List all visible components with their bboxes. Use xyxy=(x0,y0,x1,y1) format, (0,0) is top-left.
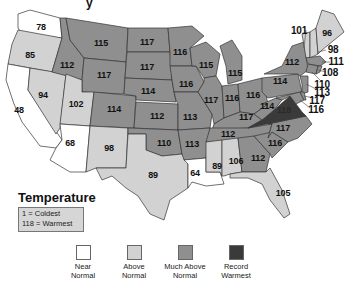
label-az: 68 xyxy=(65,138,75,148)
title-fragment: y xyxy=(86,0,93,10)
label-nv: 94 xyxy=(38,90,48,100)
label-sd: 117 xyxy=(140,62,154,72)
label-ky: 117 xyxy=(239,112,253,122)
label-md: 116 xyxy=(308,104,324,115)
label-ga: 112 xyxy=(251,153,265,163)
legend-item-record-warmest: Record Warmest xyxy=(206,245,266,280)
scale-box: 1 = Coldest 118 = Warmest xyxy=(18,207,84,232)
label-mn: 116 xyxy=(173,47,187,57)
label-mi: 115 xyxy=(228,68,242,78)
label-me: 96 xyxy=(322,28,332,38)
label-id: 112 xyxy=(60,60,74,70)
label-ia: 116 xyxy=(179,79,193,89)
label-wi: 115 xyxy=(199,60,213,70)
label-oh: 116 xyxy=(246,90,260,100)
label-ne: 114 xyxy=(141,86,155,96)
label-ma: 111 xyxy=(329,56,344,67)
swatch-above-normal xyxy=(127,245,142,260)
label-ar: 113 xyxy=(185,139,199,149)
label-nd: 117 xyxy=(140,37,154,47)
label-ut: 102 xyxy=(69,99,83,109)
label-nc: 117 xyxy=(276,123,290,133)
label-or: 85 xyxy=(25,50,35,60)
label-tn: 112 xyxy=(221,129,235,139)
legend-title: Temperature xyxy=(18,190,96,205)
label-ny: 112 xyxy=(285,57,299,67)
swatch-much-above-normal xyxy=(178,245,193,260)
label-sc: 116 xyxy=(268,138,282,148)
label-mt: 115 xyxy=(94,38,108,48)
label-la: 64 xyxy=(190,168,200,178)
label-ks: 112 xyxy=(150,111,164,121)
label-il: 117 xyxy=(204,95,218,105)
label-tx: 89 xyxy=(148,170,158,180)
label-va: 118 xyxy=(277,105,291,115)
scale-coldest: 1 = Coldest xyxy=(22,209,80,219)
label-ms: 89 xyxy=(212,161,222,171)
label-fl: 105 xyxy=(276,188,290,198)
label-nh: 98 xyxy=(328,44,339,55)
scale-warmest: 118 = Warmest xyxy=(22,219,80,229)
us-state-map xyxy=(0,0,347,282)
label-co: 114 xyxy=(107,104,121,114)
label-ri: 108 xyxy=(322,67,338,78)
swatch-near-normal xyxy=(76,245,91,260)
label-ca: 48 xyxy=(14,105,24,115)
label-mo: 113 xyxy=(183,112,197,122)
legend-label: Record Warmest xyxy=(206,262,266,280)
swatch-record-warmest xyxy=(229,245,244,260)
label-vt: 101 xyxy=(291,25,307,36)
label-pa: 114 xyxy=(273,76,287,86)
label-wy: 117 xyxy=(97,70,111,80)
label-ok: 110 xyxy=(157,138,171,148)
label-nm: 98 xyxy=(104,143,114,153)
label-wv: 114 xyxy=(260,101,274,111)
label-wa: 78 xyxy=(36,22,46,32)
label-al: 106 xyxy=(229,156,243,166)
label-in: 116 xyxy=(225,93,239,103)
